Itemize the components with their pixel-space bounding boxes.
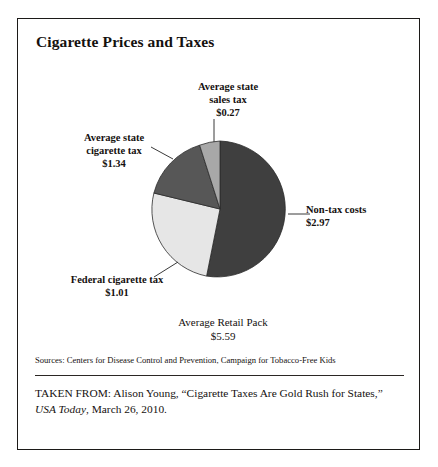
label-value: $2.97 — [306, 217, 416, 230]
label-value: $1.01 — [42, 287, 192, 300]
label-line-1: Average state — [84, 132, 144, 143]
label-average-state-cigarette-tax: Average state cigarette tax $1.34 — [54, 132, 174, 170]
source-note: Sources: Centers for Disease Control and… — [35, 355, 404, 366]
divider — [35, 375, 404, 376]
label-line-2: cigarette tax — [86, 145, 141, 156]
total-caption: Average Retail Pack — [178, 316, 268, 328]
label-line-1: Average state — [198, 81, 258, 92]
figure-frame: Cigarette Prices and Taxes Average state… — [17, 18, 420, 450]
label-line-1: Federal cigarette tax — [71, 274, 164, 285]
attribution-publication: USA Today — [35, 403, 86, 415]
label-value: $1.34 — [54, 158, 174, 171]
label-federal-cigarette-tax: Federal cigarette tax $1.01 — [42, 274, 192, 300]
label-non-tax-costs: Non-tax costs $2.97 — [306, 204, 416, 230]
average-retail-pack-total: Average Retail Pack $5.59 — [128, 315, 318, 343]
label-value: $0.27 — [168, 107, 288, 120]
label-line-2: sales tax — [209, 94, 247, 105]
total-value: $5.59 — [211, 330, 236, 342]
label-average-state-sales-tax: Average state sales tax $0.27 — [168, 81, 288, 119]
attribution-note: TAKEN FROM: Alison Young, “Cigarette Tax… — [35, 385, 397, 417]
label-line-1: Non-tax costs — [306, 204, 366, 215]
attribution-prefix: TAKEN FROM: Alison Young, “Cigarette Tax… — [35, 387, 383, 399]
attribution-suffix: , March 26, 2010. — [86, 403, 167, 415]
